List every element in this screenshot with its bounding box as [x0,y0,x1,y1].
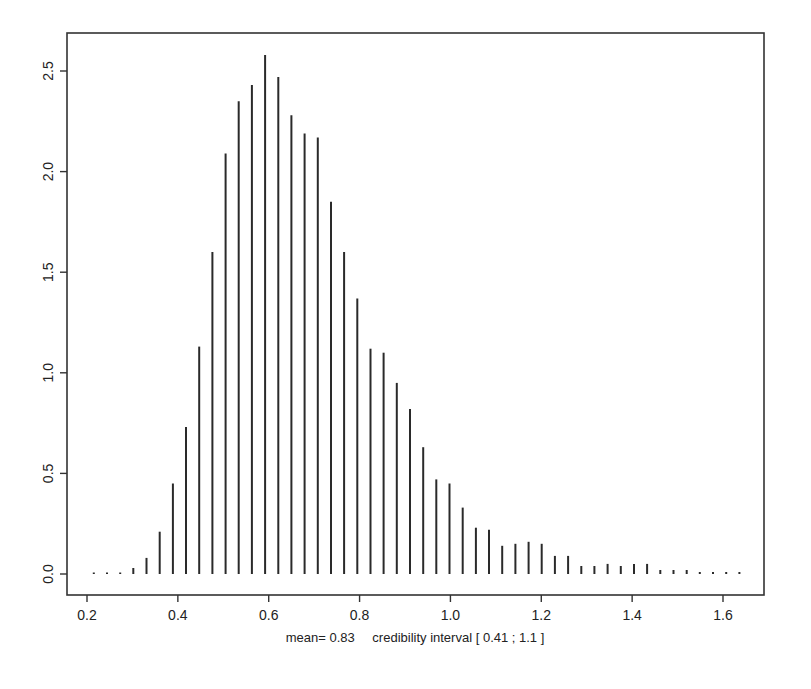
mean-label: mean= [286,630,326,645]
x-tick-label-6: 1.4 [622,607,642,623]
x-tick-label-3: 0.8 [350,607,370,623]
x-tick-label-4: 1.0 [441,607,461,623]
x-axis: 0.20.40.60.81.01.21.41.6 [77,595,733,623]
density-spike-chart: 0.20.40.60.81.01.21.41.6 0.00.51.01.52.0… [0,0,811,689]
plot-frame [67,33,764,595]
y-tick-label-5: 2.5 [40,61,56,81]
mean-value: 0.83 [329,630,354,645]
y-tick-label-4: 2.0 [40,162,56,182]
y-tick-label-3: 1.5 [40,262,56,282]
y-axis: 0.00.51.01.52.02.5 [40,61,67,584]
x-tick-label-5: 1.2 [532,607,552,623]
x-tick-label-0: 0.2 [77,607,97,623]
bars-group [94,55,740,574]
interval-value: [ 0.41 ; 1.1 ] [476,630,545,645]
interval-label: credibility interval [372,630,472,645]
chart-caption: mean= 0.83 credibility interval [ 0.41 ;… [286,630,545,645]
x-tick-label-7: 1.6 [713,607,733,623]
y-tick-label-2: 1.0 [40,363,56,383]
y-tick-label-1: 0.5 [40,463,56,483]
x-tick-label-1: 0.4 [168,607,188,623]
x-tick-label-2: 0.6 [259,607,279,623]
y-tick-label-0: 0.0 [40,564,56,584]
